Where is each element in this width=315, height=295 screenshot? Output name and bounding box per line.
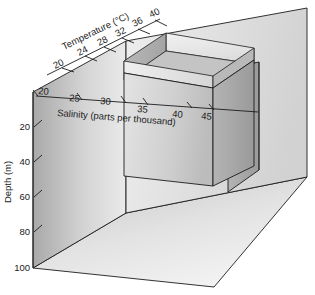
temperature-tick-40	[155, 20, 167, 26]
depth-tick-label-100: 100	[14, 262, 30, 273]
depth-tick-label-60: 60	[19, 191, 30, 202]
temperature-tick-36	[138, 29, 150, 34]
figure-container: 20 25 30 35 40 45 Salinity (parts per th…	[0, 0, 315, 295]
box-front-face	[124, 73, 213, 186]
salinity-tick-label-30: 30	[100, 95, 111, 107]
salinity-tick-label-45: 45	[201, 110, 212, 122]
salinity-tick-label-20: 20	[38, 85, 49, 97]
temperature-tick-label-36: 36	[130, 14, 144, 29]
temperature-tick-label-40: 40	[147, 5, 161, 20]
block-diagram: 20 25 30 35 40 45 Salinity (parts per th…	[0, 0, 315, 295]
depth-tick-label-80: 80	[19, 226, 30, 237]
depth-tick-label-40: 40	[19, 156, 30, 167]
salinity-tick-label-25: 25	[69, 92, 80, 104]
depth-tick-label-20: 20	[19, 121, 30, 132]
depth-axis-title: Depth (m)	[2, 161, 13, 203]
